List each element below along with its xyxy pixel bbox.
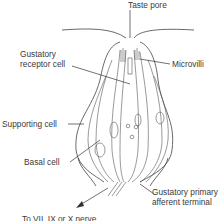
nerve-fibers bbox=[108, 182, 126, 196]
leader-basal-cell bbox=[70, 140, 100, 162]
label-afferent-1: Gustatory primary bbox=[152, 187, 218, 197]
label-microvilli: Microvilli bbox=[172, 59, 204, 69]
label-basal-cell: Basal cell bbox=[24, 157, 60, 167]
label-gustatory-receptor-cell-1: Gustatory bbox=[20, 49, 56, 59]
outer-curve-right bbox=[150, 158, 168, 186]
nerve-arrow-head bbox=[76, 201, 84, 208]
label-gustatory-receptor-cell-2: receptor cell bbox=[20, 59, 65, 69]
microvilli-cluster bbox=[121, 48, 139, 62]
epithelium-surface-left bbox=[62, 29, 126, 38]
taste-bud-outline-right bbox=[140, 42, 173, 182]
leader-receptor-cell bbox=[72, 66, 130, 84]
epithelium-surface-right bbox=[134, 29, 194, 38]
label-nerve: To VII, IX or X nerve bbox=[22, 214, 96, 221]
nerve-arrow-shaft bbox=[80, 188, 108, 205]
label-taste-pore: Taste pore bbox=[128, 0, 167, 10]
label-supporting-cell: Supporting cell bbox=[2, 119, 57, 129]
label-afferent-2: afferent terminal bbox=[152, 197, 212, 207]
